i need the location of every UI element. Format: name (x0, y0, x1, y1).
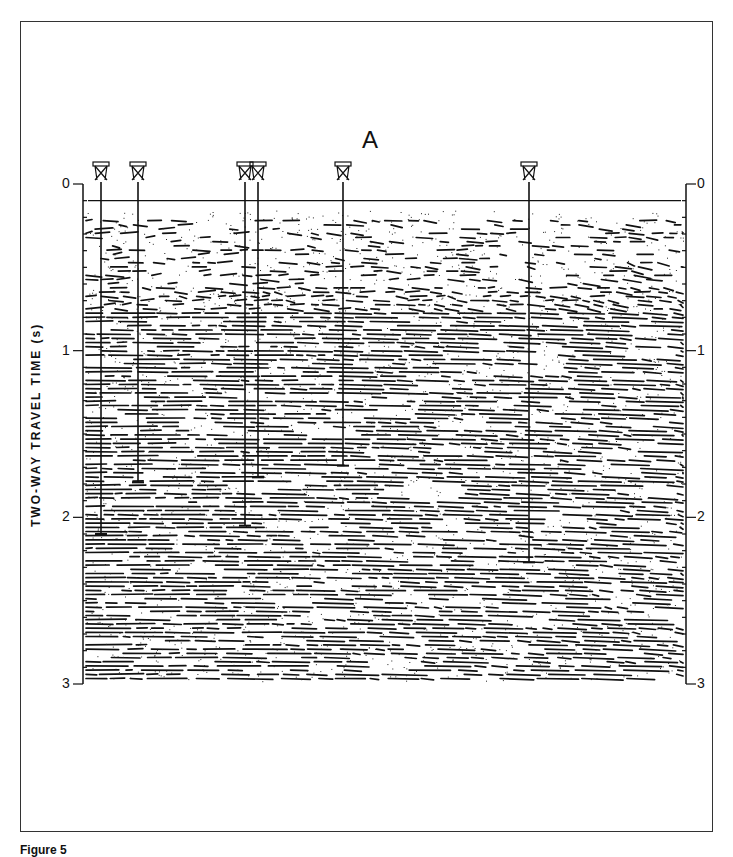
y-axis-title: TWO-WAY TRAVEL TIME (s) (29, 347, 43, 527)
left-tick-0: 0 (62, 175, 70, 191)
figure-caption: Figure 5 (20, 843, 67, 857)
right-tick-0: 0 (697, 175, 705, 191)
well-1-rig-icon (93, 162, 109, 180)
right-tick-2: 2 (697, 508, 705, 524)
left-tick-1: 1 (62, 342, 70, 358)
well-5-rig-icon (335, 162, 351, 180)
time-axes (73, 184, 696, 684)
well-3-rig-icon (237, 162, 253, 180)
well-4-rig-icon (250, 162, 266, 180)
well-6-rig-icon (521, 162, 537, 180)
seismic-reflection-data (86, 201, 684, 682)
right-tick-3: 3 (697, 675, 705, 691)
right-tick-1: 1 (697, 342, 705, 358)
panel-label: A (362, 126, 378, 154)
left-tick-2: 2 (62, 508, 70, 524)
left-tick-3: 3 (62, 675, 70, 691)
well-2-rig-icon (130, 162, 146, 180)
